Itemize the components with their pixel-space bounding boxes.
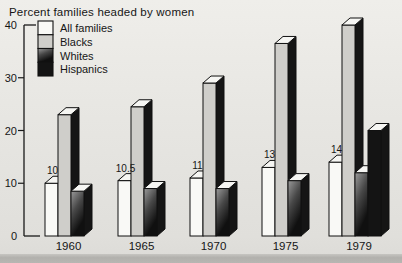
bar-side-face [229, 182, 237, 236]
bar-front-face [71, 191, 84, 236]
bar-whites-1970 [216, 182, 237, 236]
y-tick-label-30: 30 [5, 72, 17, 84]
y-tick-label-40: 40 [5, 19, 17, 31]
x-category-label-1970: 1970 [201, 240, 227, 252]
value-label-1970: 11 [192, 160, 203, 171]
legend-swatch-all-families [38, 21, 53, 35]
page-bottom-shadow [0, 254, 402, 263]
bar-side-face [301, 174, 309, 236]
x-category-label-1979: 1979 [346, 240, 372, 252]
bar-front-face [329, 162, 342, 236]
bar-whites-1975 [288, 174, 309, 236]
bar-front-face [342, 25, 355, 236]
bar-chart: 010203040All familiesBlacksWhitesHispani… [0, 0, 402, 263]
bar-whites-1960 [71, 184, 92, 236]
bar-whites-1965 [144, 182, 165, 236]
x-category-label-1965: 1965 [129, 240, 155, 252]
bar-hispanics-1979 [368, 124, 389, 237]
legend [38, 21, 53, 76]
value-label-1979: 14 [331, 144, 343, 155]
x-category-label-1960: 1960 [56, 240, 82, 252]
y-axis [18, 25, 40, 236]
bar-group-1975 [262, 36, 309, 236]
bar-front-face [368, 131, 381, 237]
bar-front-face [355, 173, 368, 236]
value-label-1975: 13 [264, 149, 276, 160]
bar-front-face [275, 43, 288, 236]
legend-label-all-families: All families [60, 22, 113, 34]
bar-front-face [288, 181, 301, 236]
figure-percent-families-headed-by-women: Percent families headed by women 0102030… [0, 0, 402, 263]
y-tick-label-0: 0 [11, 230, 17, 242]
bar-group-1970 [190, 76, 237, 236]
bar-front-face [45, 183, 58, 236]
legend-label-whites: Whites [60, 50, 94, 62]
bar-front-face [144, 189, 157, 236]
bar-front-face [118, 181, 131, 236]
bar-front-face [262, 167, 275, 236]
bar-front-face [216, 189, 229, 236]
bar-group-1979 [329, 18, 389, 236]
value-label-1960: 10 [47, 165, 59, 176]
legend-swatch-whites [38, 49, 53, 63]
y-tick-label-10: 10 [5, 177, 17, 189]
legend-label-blacks: Blacks [60, 36, 93, 48]
bar-side-face [84, 184, 92, 236]
bar-side-face [157, 182, 165, 236]
legend-swatch-blacks [38, 35, 53, 49]
bar-front-face [203, 83, 216, 236]
y-tick-label-20: 20 [5, 125, 17, 137]
bar-side-face [381, 124, 389, 237]
value-label-1965: 10.5 [116, 163, 136, 174]
bar-front-face [190, 178, 203, 236]
legend-label-hispanics: Hispanics [60, 63, 108, 75]
bar-front-face [58, 115, 71, 236]
x-category-label-1975: 1975 [273, 240, 299, 252]
legend-swatch-hispanics [38, 62, 53, 76]
